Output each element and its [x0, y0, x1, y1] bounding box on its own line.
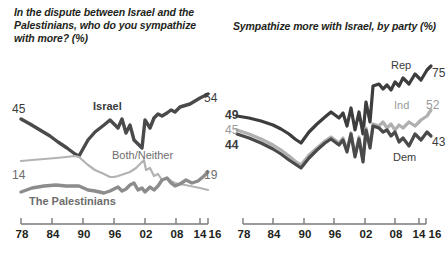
right-tick-90: 90 [299, 228, 312, 240]
left-label-both-neither: Both/Neither [112, 150, 173, 161]
right-value-dem-start: 44 [225, 140, 238, 151]
right-label-rep: Rep [391, 60, 411, 71]
left-tick-90: 90 [78, 228, 91, 240]
left-label-palestinians: The Palestinians [29, 196, 116, 207]
left-label-israel: Israel [93, 101, 122, 112]
left-axis-labels: 78 84 90 96 02 08 14 16 [0, 228, 223, 250]
right-tick-16: 16 [429, 228, 442, 240]
right-chart-plot [223, 0, 446, 253]
right-tick-84: 84 [268, 228, 281, 240]
left-tick-02: 02 [140, 228, 153, 240]
left-value-palestinians-end: 19 [204, 170, 217, 181]
left-value-israel-end: 54 [204, 93, 217, 104]
chart-page: In the dispute between Israel and the Pa… [0, 0, 446, 253]
chart-panel-left: In the dispute between Israel and the Pa… [0, 0, 223, 253]
left-tick-96: 96 [109, 228, 122, 240]
right-tick-02: 02 [360, 228, 373, 240]
right-tick-08: 08 [390, 228, 403, 240]
left-tick-14: 14 [194, 228, 207, 240]
right-value-ind-start: 45 [225, 125, 238, 136]
left-tick-78: 78 [16, 228, 29, 240]
right-value-dem-end: 43 [432, 137, 445, 148]
right-tick-96: 96 [329, 228, 342, 240]
right-value-rep-end: 75 [432, 68, 445, 79]
right-value-ind-end: 52 [426, 100, 439, 111]
right-axis-labels: 78 84 90 96 02 08 14 16 [223, 228, 446, 250]
left-tick-16: 16 [209, 228, 222, 240]
left-value-israel-start: 45 [12, 104, 25, 115]
left-tick-08: 08 [171, 228, 184, 240]
right-tick-78: 78 [238, 228, 251, 240]
left-series-palestinians [21, 172, 208, 193]
left-tick-84: 84 [47, 228, 60, 240]
right-tick-14: 14 [413, 228, 426, 240]
right-label-dem: Dem [393, 152, 416, 163]
left-value-palestinians-start: 14 [12, 170, 25, 181]
left-chart-plot [0, 0, 223, 253]
right-value-rep-start: 49 [225, 110, 238, 121]
right-label-ind: Ind [394, 100, 409, 111]
chart-panel-right: Sympathize more with Israel, by party (%… [223, 0, 446, 253]
